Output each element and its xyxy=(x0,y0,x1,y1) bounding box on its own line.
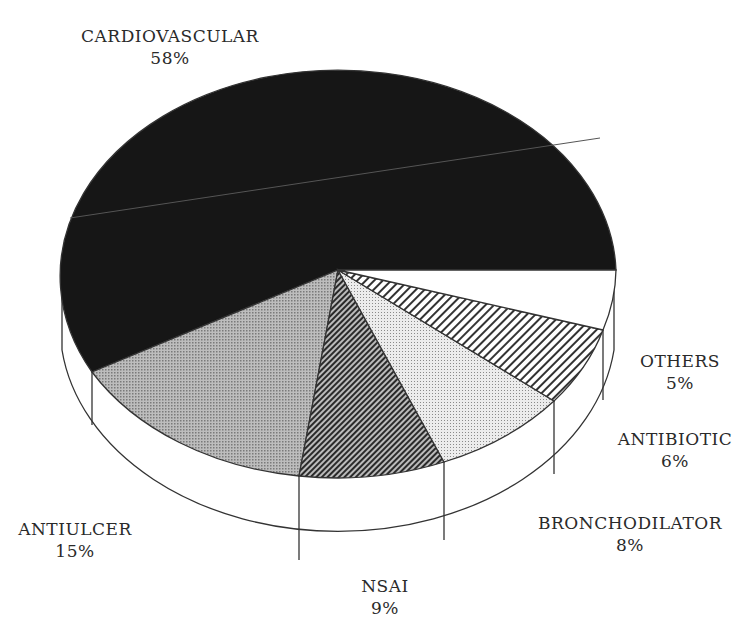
label-nsai: NSAI 9% xyxy=(345,575,425,619)
label-cardiovascular: CARDIOVASCULAR 58% xyxy=(70,25,270,69)
label-name: ANTIULCER xyxy=(15,518,135,540)
label-pct: 5% xyxy=(630,372,730,394)
label-pct: 9% xyxy=(345,597,425,619)
label-bronchodilator: BRONCHODILATOR 8% xyxy=(525,512,735,556)
label-pct: 6% xyxy=(605,450,745,472)
label-others: OTHERS 5% xyxy=(630,350,730,394)
label-name: OTHERS xyxy=(630,350,730,372)
pie-top xyxy=(60,70,616,478)
label-antibiotic: ANTIBIOTIC 6% xyxy=(605,428,745,472)
label-antiulcer: ANTIULCER 15% xyxy=(15,518,135,562)
label-name: BRONCHODILATOR xyxy=(525,512,735,534)
label-pct: 15% xyxy=(15,540,135,562)
label-name: NSAI xyxy=(345,575,425,597)
label-name: CARDIOVASCULAR xyxy=(70,25,270,47)
label-pct: 8% xyxy=(525,534,735,556)
label-name: ANTIBIOTIC xyxy=(605,428,745,450)
label-pct: 58% xyxy=(70,47,270,69)
